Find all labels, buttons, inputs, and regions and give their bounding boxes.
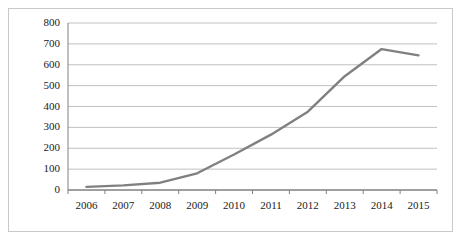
x-axis-tick-label: 2006 [68, 200, 105, 211]
x-axis-tick-label: 2009 [179, 200, 216, 211]
data-series-line [86, 49, 418, 187]
y-axis-tick-label: 300 [26, 121, 60, 132]
x-axis-tick-label: 2011 [253, 200, 290, 211]
y-axis-tick-label: 500 [26, 80, 60, 91]
y-axis-tick-label: 200 [26, 142, 60, 153]
x-axis-tick-label: 2007 [105, 200, 142, 211]
x-axis-tick-label: 2012 [289, 200, 326, 211]
x-axis-tick-label: 2008 [142, 200, 179, 211]
x-axis-tick-label: 2014 [363, 200, 400, 211]
y-axis-tick-label: 0 [26, 184, 60, 195]
x-axis-tick-label: 2013 [326, 200, 363, 211]
y-axis-tick-label: 100 [26, 163, 60, 174]
y-axis-tick-label: 600 [26, 59, 60, 70]
y-axis-tick-label: 800 [26, 17, 60, 28]
x-axis-ticks [68, 190, 437, 194]
x-axis-tick-label: 2015 [400, 200, 437, 211]
y-axis-tick-label: 400 [26, 101, 60, 112]
x-axis-tick-label: 2010 [216, 200, 253, 211]
y-axis-tick-label: 700 [26, 38, 60, 49]
